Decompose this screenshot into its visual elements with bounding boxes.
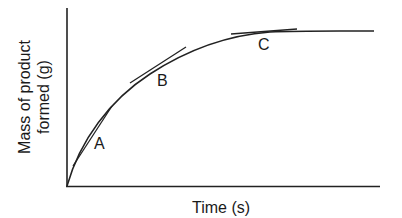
tangent-a — [73, 106, 112, 166]
product-curve — [67, 31, 374, 186]
x-axis-label: Time (s) — [192, 199, 250, 216]
label-b: B — [157, 72, 168, 89]
label-c: C — [258, 36, 270, 53]
rate-of-reaction-chart: A B C Time (s) Mass of product formed (g… — [0, 0, 402, 218]
y-axis-label-line2: formed (g) — [35, 60, 52, 134]
label-a: A — [94, 135, 105, 152]
y-axis-label-line1: Mass of product — [16, 40, 33, 154]
